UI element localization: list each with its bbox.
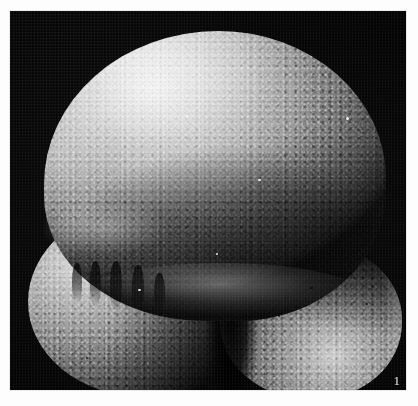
surface-pustule <box>346 117 349 120</box>
surface-pustule <box>186 115 188 117</box>
suture-crease <box>154 273 165 313</box>
surface-pit <box>310 287 313 289</box>
sem-micrograph: 1 <box>10 11 406 390</box>
plate-page: 1 <box>0 0 418 406</box>
surface-pit <box>366 303 368 305</box>
suture-crease <box>110 261 122 311</box>
surface-pit <box>278 315 280 317</box>
surface-pustule <box>258 179 261 181</box>
surface-pustule <box>138 289 141 291</box>
suture-crease <box>72 263 82 303</box>
surface-pit <box>86 357 88 359</box>
suture-crease <box>90 261 101 307</box>
surface-pustule <box>216 253 218 255</box>
figure-number-label: 1 <box>394 374 401 387</box>
